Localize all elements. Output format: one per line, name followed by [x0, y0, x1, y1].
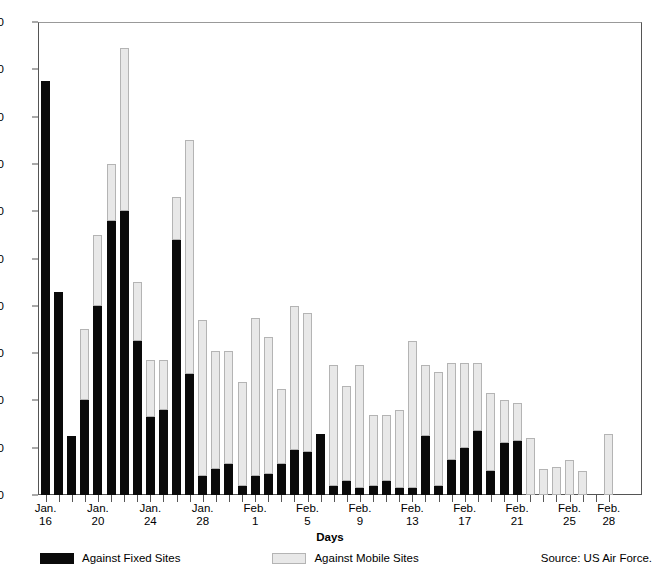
- bar-jan-16: [41, 81, 50, 495]
- bar-segment-fixed: [67, 436, 76, 495]
- y-axis: 020406080100120140160180200: [0, 0, 40, 520]
- bar-segment-fixed: [447, 460, 456, 495]
- legend-swatch-mobile-icon: [272, 553, 306, 564]
- x-tick-label-month: Jan.: [192, 502, 214, 515]
- bar-feb-20: [500, 400, 509, 495]
- bar-segment-mobile: [159, 360, 168, 410]
- bar-segment-mobile: [552, 467, 561, 495]
- bar-segment-fixed: [460, 448, 469, 495]
- bar-segment-mobile: [539, 469, 548, 495]
- x-tick-label: Feb.9: [348, 502, 371, 527]
- bar-segment-mobile: [238, 382, 247, 486]
- x-tick-mark: [543, 495, 544, 502]
- x-tick-mark: [190, 495, 191, 502]
- x-tick-label: Jan.16: [35, 502, 57, 527]
- bar-jan-26: [172, 197, 181, 495]
- bar-feb-9: [355, 365, 364, 495]
- x-tick-mark: [163, 495, 164, 502]
- bar-segment-fixed: [316, 434, 325, 495]
- bar-segment-fixed: [107, 221, 116, 495]
- x-tick-mark: [425, 495, 426, 502]
- bar-segment-fixed: [146, 417, 155, 495]
- x-tick-mark: [399, 495, 400, 502]
- bar-jan-27: [185, 140, 194, 495]
- bar-segment-mobile: [369, 415, 378, 486]
- bar-segment-mobile: [578, 471, 587, 495]
- x-tick-mark: [386, 495, 387, 502]
- x-tick-label-month: Jan.: [139, 502, 161, 515]
- x-tick-mark: [556, 495, 557, 502]
- x-tick-mark: [452, 495, 453, 502]
- bar-segment-fixed: [342, 481, 351, 495]
- bar-segment-mobile: [421, 365, 430, 436]
- bar-segment-mobile: [251, 318, 260, 476]
- bar-segment-mobile: [486, 393, 495, 471]
- bar-segment-mobile: [565, 460, 574, 495]
- bar-series-container: [38, 22, 642, 495]
- bar-jan-18: [67, 436, 76, 495]
- bar-jan-19: [80, 329, 89, 495]
- x-tick-mark: [321, 495, 322, 502]
- bar-feb-28: [604, 434, 613, 495]
- bar-segment-fixed: [185, 374, 194, 495]
- x-tick-label-day: 5: [296, 515, 319, 528]
- x-tick-label-day: 25: [558, 515, 581, 528]
- bar-feb-15: [434, 372, 443, 495]
- bar-segment-fixed: [172, 240, 181, 495]
- bar-segment-mobile: [329, 365, 338, 486]
- x-tick-mark: [412, 495, 413, 502]
- bar-feb-7: [329, 365, 338, 495]
- x-tick-mark: [268, 495, 269, 502]
- bar-segment-fixed: [224, 464, 233, 495]
- bar-feb-5: [303, 313, 312, 495]
- x-axis-title: Days: [0, 531, 660, 543]
- legend-label-fixed: Against Fixed Sites: [82, 552, 180, 564]
- bar-jan-20: [93, 235, 102, 495]
- bar-segment-fixed: [382, 481, 391, 495]
- bar-segment-fixed: [211, 469, 220, 495]
- x-tick-label: Jan.20: [87, 502, 109, 527]
- bar-jan-17: [54, 292, 63, 495]
- bar-segment-mobile: [434, 372, 443, 486]
- bar-feb-11: [382, 415, 391, 495]
- x-tick-mark: [46, 495, 47, 502]
- y-tick-label: 160: [0, 111, 4, 123]
- bar-segment-mobile: [408, 341, 417, 488]
- bar-segment-fixed: [473, 431, 482, 495]
- x-tick-mark: [517, 495, 518, 502]
- bar-feb-8: [342, 386, 351, 495]
- bar-segment-fixed: [369, 486, 378, 495]
- bar-jan-24: [146, 360, 155, 495]
- bar-segment-mobile: [303, 313, 312, 453]
- bar-segment-mobile: [355, 365, 364, 488]
- x-tick-label-day: 9: [348, 515, 371, 528]
- bar-segment-fixed: [277, 464, 286, 495]
- x-tick-label: Jan.24: [139, 502, 161, 527]
- x-tick-mark: [478, 495, 479, 502]
- bar-segment-mobile: [264, 337, 273, 474]
- bar-feb-24: [552, 467, 561, 495]
- x-tick-mark: [72, 495, 73, 502]
- bar-segment-fixed: [120, 211, 129, 495]
- x-tick-label-month: Feb.: [401, 502, 424, 515]
- x-tick-mark: [216, 495, 217, 502]
- x-tick-label-day: 24: [139, 515, 161, 528]
- x-tick-label-day: 13: [401, 515, 424, 528]
- x-tick-mark: [334, 495, 335, 502]
- x-tick-mark: [465, 495, 466, 502]
- x-tick-label-month: Jan.: [35, 502, 57, 515]
- bar-segment-mobile: [277, 389, 286, 465]
- bar-segment-mobile: [146, 360, 155, 417]
- bar-feb-22: [526, 438, 535, 495]
- bar-segment-fixed: [238, 486, 247, 495]
- x-tick-label-month: Feb.: [296, 502, 319, 515]
- x-tick-mark: [360, 495, 361, 502]
- bar-feb-14: [421, 365, 430, 495]
- x-tick-label: Feb.5: [296, 502, 319, 527]
- y-tick-label: 40: [0, 394, 4, 406]
- bar-segment-fixed: [264, 474, 273, 495]
- bar-segment-fixed: [329, 486, 338, 495]
- bar-segment-mobile: [290, 306, 299, 450]
- bar-feb-13: [408, 341, 417, 495]
- x-tick-mark: [124, 495, 125, 502]
